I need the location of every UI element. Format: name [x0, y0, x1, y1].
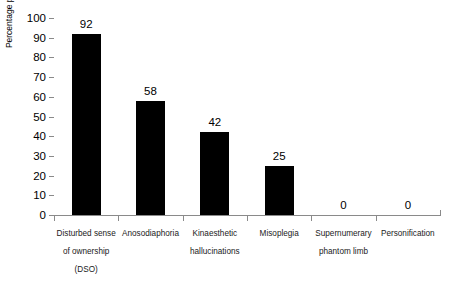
x-axis-category-label: Supernumeraryphantom limb — [311, 225, 375, 261]
x-axis-category-line: Misoplegia — [247, 225, 311, 243]
x-axis-tick-mark — [247, 216, 248, 221]
bar-value-label: 0 — [314, 199, 374, 212]
y-axis-tick-labels: 1009080706050403020100 — [18, 0, 46, 286]
bar-value-label: 58 — [121, 85, 181, 98]
bar — [136, 101, 165, 215]
x-axis-category-label: Kinaesthetichallucinations — [183, 225, 247, 261]
y-axis-tick-label: 10 — [20, 189, 46, 201]
plot-area — [54, 18, 440, 215]
x-axis-category-line: Disturbed sense — [54, 225, 118, 243]
x-axis-tick-mark — [183, 216, 184, 221]
x-axis-tick-mark — [311, 216, 312, 221]
y-axis-tick-label: 20 — [20, 170, 46, 182]
bar-value-label: 42 — [185, 116, 245, 129]
y-axis-tick-label: 0 — [20, 209, 46, 221]
x-axis-category-line: phantom limb — [311, 243, 375, 261]
bar-value-label: 92 — [56, 18, 116, 31]
y-axis-tick-label: 40 — [20, 130, 46, 142]
bar — [72, 34, 101, 215]
x-axis-category-line: hallucinations — [183, 243, 247, 261]
y-axis-tick-label: 100 — [20, 12, 46, 24]
x-axis-category-line: Personification — [376, 225, 440, 243]
x-axis-category-line: of ownership — [54, 243, 118, 261]
x-axis-category-line: (DSO) — [54, 261, 118, 279]
y-axis-title: Percentage present — [2, 0, 16, 76]
y-axis-tick-label: 80 — [20, 51, 46, 63]
y-axis-tick-label: 60 — [20, 91, 46, 103]
bar-value-label: 0 — [378, 199, 438, 212]
bar — [200, 132, 229, 215]
x-axis-tick-mark — [54, 216, 55, 221]
bar-chart: Percentage present 100908070605040302010… — [0, 0, 459, 286]
x-axis-category-line: Kinaesthetic — [183, 225, 247, 243]
x-axis-category-label: Misoplegia — [247, 225, 311, 243]
x-axis-category-label: Disturbed senseof ownership(DSO) — [54, 225, 118, 279]
x-axis-category-label: Anosodiaphoria — [118, 225, 182, 243]
x-axis-category-line: Supernumerary — [311, 225, 375, 243]
bar — [265, 166, 294, 215]
x-axis-tick-mark — [376, 216, 377, 221]
x-axis-tick-mark — [118, 216, 119, 221]
x-axis-category-line: Anosodiaphoria — [118, 225, 182, 243]
y-axis-tick-label: 30 — [20, 150, 46, 162]
y-axis-tick-label: 50 — [20, 111, 46, 123]
x-axis-category-label: Personification — [376, 225, 440, 243]
y-axis-tick-label: 70 — [20, 71, 46, 83]
x-axis-end-cap — [440, 210, 441, 216]
y-axis-tick-label: 90 — [20, 32, 46, 44]
bar-value-label: 25 — [249, 150, 309, 163]
